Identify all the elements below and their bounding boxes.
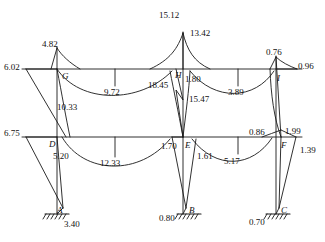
node-label-B: B: [189, 206, 195, 215]
node-label-C: C: [281, 206, 287, 215]
moment-value-3-89: 3.89: [228, 88, 244, 97]
moment-right-column-base-0-70: [276, 208, 279, 214]
moment-middle-column-upper-18-45: [170, 71, 183, 137]
node-label-F: F: [281, 141, 287, 150]
moment-value-0-96: 0.96: [298, 62, 314, 71]
moment-value-5-20: 5.20: [53, 152, 69, 161]
moment-value-0-76: 0.76: [266, 48, 282, 57]
moment-middle-column-peak-right: [183, 33, 210, 69]
moment-value-1-80: 1.80: [185, 75, 201, 84]
moment-left-column-top-4-82: [51, 48, 57, 69]
moment-value-12-33: 12.33: [100, 159, 120, 168]
moment-left-column-top-curve: [57, 48, 80, 69]
node-label-D: D: [49, 140, 56, 149]
bending-moment-diagram: 4.82 6.02 10.33 9.72 15.12 13.42 18.45 1…: [0, 0, 325, 242]
moment-value-10-33: 10.33: [57, 103, 77, 112]
moment-right-column-top-curve: [276, 57, 297, 69]
moment-right-column-top-0-76: [270, 57, 276, 69]
moment-value-3-40: 3.40: [64, 220, 80, 229]
moment-value-18-45: 18.45: [148, 81, 168, 90]
node-label-I: I: [277, 74, 280, 83]
moment-value-6-75: 6.75: [4, 129, 20, 138]
moment-value-5-17: 5.17: [224, 157, 240, 166]
moment-value-0-70: 0.70: [249, 218, 265, 227]
diagram-canvas: [0, 0, 325, 242]
moment-value-6-02: 6.02: [4, 63, 20, 72]
moment-value-0-80: 0.80: [159, 214, 175, 223]
moment-value-0-86: 0.86: [249, 128, 265, 137]
moment-value-1-99: 1.99: [285, 127, 301, 136]
moment-value-1-70: 1.70: [161, 142, 177, 151]
moment-value-4-82: 4.82: [42, 40, 58, 49]
node-label-E: E: [185, 141, 191, 150]
node-label-H: H: [175, 71, 182, 80]
moment-value-1-39: 1.39: [300, 146, 316, 155]
moment-middle-column-peak-left: [150, 33, 183, 69]
moment-value-1-61: 1.61: [197, 152, 213, 161]
node-label-G: G: [62, 72, 69, 81]
moment-value-15-47: 15.47: [189, 95, 209, 104]
support-B-symbol: [175, 214, 201, 219]
moment-value-13-42: 13.42: [190, 29, 210, 38]
moment-value-9-72: 9.72: [104, 88, 120, 97]
node-label-A: A: [57, 206, 63, 215]
moment-value-15-12: 15.12: [159, 11, 179, 20]
